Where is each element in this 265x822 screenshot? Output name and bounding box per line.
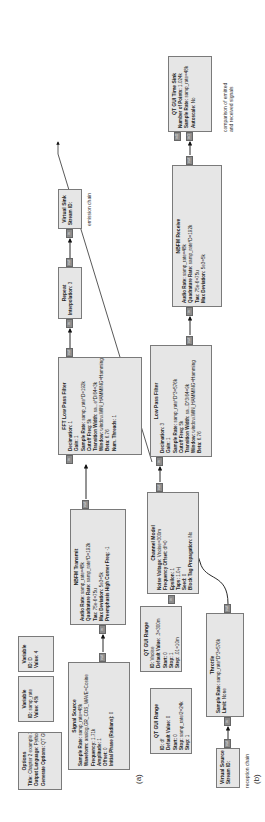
qt-gui-range-vnoise-block[interactable]: QT GUI Range ID: Vnoise Default Value: .… <box>140 606 182 672</box>
nbfm-receive-in-port[interactable]: in <box>186 307 193 316</box>
block-title: Virtual Source <box>219 752 225 784</box>
block-param: Autoscale: No <box>191 60 197 128</box>
block-param: Step: 1 <box>185 692 191 750</box>
virtual-source-out-port[interactable]: out <box>224 739 231 748</box>
fft-lpf-out-port[interactable]: out <box>66 348 73 357</box>
block-param: Beta: 6.76 <box>197 349 203 453</box>
lpf-in-port[interactable]: in <box>156 457 163 466</box>
channel-model-block[interactable]: Channel Model Noise Voltage: Vnoise=300m… <box>147 492 199 594</box>
block-param: Interpolation: 3 <box>68 271 74 315</box>
block-param: Num. Threads: 1 <box>112 361 118 451</box>
repeat-in-port[interactable]: in <box>66 319 73 328</box>
block-title: Options <box>21 736 27 786</box>
block-title: QT GUI Range <box>143 610 149 668</box>
block-title: Repeat <box>61 271 67 315</box>
block-title: QT GUI Time Sink <box>171 60 177 128</box>
comparison-note: comparison of emitted and received signa… <box>222 83 234 132</box>
block-title: Variable <box>21 640 27 668</box>
options-block[interactable]: Options Title: Chapter 2 example 3 Outpu… <box>18 732 62 790</box>
lpf-out-port[interactable]: out <box>186 336 193 345</box>
emission-chain-note: emission chain <box>86 193 92 226</box>
panel-b-label: (b) <box>252 774 261 784</box>
nbfm-receive-out-port[interactable]: out <box>186 156 193 165</box>
fft-lpf-in-port[interactable]: in <box>66 455 73 464</box>
block-param: Step: .01=10m <box>175 610 181 668</box>
channel-model-in-port[interactable]: in <box>168 595 175 604</box>
block-param: Block Tag Propagation: No <box>188 496 194 590</box>
virtual-sink-in-port[interactable]: in <box>66 229 73 238</box>
throttle-out-port[interactable]: out <box>224 604 231 613</box>
block-title: Variable <box>21 680 27 718</box>
time-sink-in0-port[interactable]: in0 <box>174 132 181 141</box>
signal-source-block[interactable]: Signal Source Sample Rate: samp_rate=48k… <box>68 662 130 770</box>
flowgraph-canvas: Options Title: Chapter 2 example 3 Outpu… <box>0 0 265 822</box>
channel-model-out-port[interactable]: out <box>156 483 163 492</box>
reception-chain-note: reception chain <box>244 754 250 788</box>
block-param: Stream ID: <box>226 752 232 784</box>
block-param: Stream ID: <box>68 193 74 225</box>
block-param: Max Deviation: 5e3=5k <box>201 169 207 303</box>
block-title: Channel Model <box>150 496 156 590</box>
comparison-note-line2: and received signals <box>228 83 234 132</box>
nbfm-transmit-block[interactable]: NBFM Transmit Audio Rate: samp_rate=48k … <box>70 509 126 625</box>
block-param: Value: 48k <box>34 680 40 718</box>
block-title: FFT Low Pass Filter <box>61 361 67 451</box>
block-title: NBFM Receive <box>175 169 181 303</box>
block-param: Generate Options: QT GUI <box>41 736 47 786</box>
qt-gui-range-df-block[interactable]: QT GUI Range ID: df Default Value: 0 Sta… <box>150 688 192 754</box>
nbfm-transmit-in-port[interactable]: in <box>99 625 106 634</box>
throttle-in-port[interactable]: in <box>224 717 231 726</box>
time-sink-in1-port[interactable]: in1 <box>186 132 193 141</box>
fft-low-pass-filter-block[interactable]: FFT Low Pass Filter Decimation: 1 Gain: … <box>58 357 142 455</box>
signal-source-out-port[interactable]: out <box>99 653 106 662</box>
block-param: Value: 4 <box>34 640 40 668</box>
nbfm-receive-block[interactable]: NBFM Receive Audio Rate: samp_rate=48k Q… <box>172 165 222 307</box>
panel-a-label: (a) <box>134 774 143 784</box>
low-pass-filter-block[interactable]: Low Pass Filter Decimation: 3 Gain: 1 Sa… <box>150 345 212 457</box>
block-title: QT GUI Range <box>153 692 159 750</box>
block-title: Signal Source <box>71 666 77 766</box>
block-param: Preemphasis High Corner Freq: -1 <box>105 513 111 621</box>
nbfm-transmit-out-port[interactable]: out <box>82 500 89 509</box>
block-param: Limit: None <box>222 617 228 713</box>
repeat-out-port[interactable]: out <box>66 258 73 267</box>
block-title: NBFM Transmit <box>73 513 79 621</box>
qt-gui-time-sink-block[interactable]: QT GUI Time Sink Number of Points: 1.024… <box>168 56 212 132</box>
repeat-block[interactable]: Repeat Interpolation: 3 <box>58 267 82 319</box>
variable-d-block[interactable]: Variable ID: D Value: 4 <box>18 636 54 672</box>
block-title: Virtual Sink <box>61 193 67 225</box>
throttle-block[interactable]: Throttle Sample Rate: samp_rate*D*3=576k… <box>206 613 244 717</box>
virtual-source-block[interactable]: Virtual Source Stream ID: <box>216 748 240 788</box>
variable-samp-rate-block[interactable]: Variable ID: samp_rate Value: 48k <box>18 676 54 722</box>
block-title: Throttle <box>209 617 215 713</box>
virtual-sink-block[interactable]: Virtual Sink Stream ID: <box>58 189 82 229</box>
block-title: Low Pass Filter <box>153 349 159 453</box>
block-param: Initial Phase (Radians): 0 <box>109 666 115 766</box>
